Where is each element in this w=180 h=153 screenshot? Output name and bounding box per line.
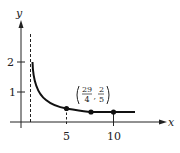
x-axis-label: x [168,116,175,129]
x-axis-arrow-icon [159,120,167,125]
annotation-numerator-1: 29 [82,85,92,94]
y-axis-label: y [15,7,23,20]
data-point [111,109,116,114]
function-graph: y x 2 1 5 10 29 4 , 2 5 [0,0,180,153]
annotation-denominator-2: 5 [99,95,104,104]
x-tick-label-10: 10 [107,130,121,143]
annotation-separator: , [94,92,97,101]
y-axis-arrow-icon [19,20,24,28]
point-annotation: 29 4 , 2 5 [77,85,109,104]
data-point [64,106,69,111]
y-tick-label-2: 2 [7,56,14,69]
annotation-numerator-2: 2 [99,85,104,94]
data-point [88,109,93,114]
chart-canvas: y x 2 1 5 10 29 4 , 2 5 [0,0,180,153]
y-tick-label-1: 1 [9,86,16,99]
x-tick-label-5: 5 [63,130,70,143]
annotation-denominator-1: 4 [85,95,90,104]
